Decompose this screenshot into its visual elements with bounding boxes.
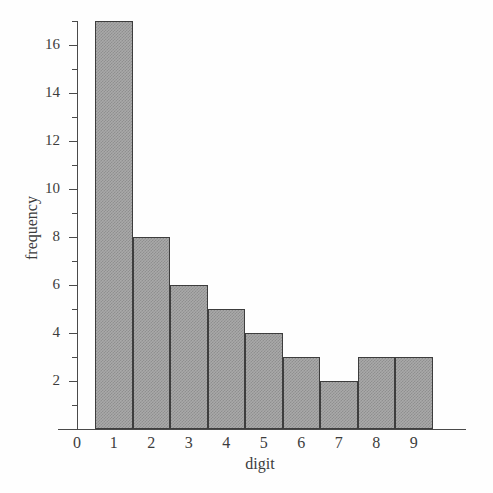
- y-tick-major: [69, 333, 77, 334]
- y-tick-major: [69, 45, 77, 46]
- y-tick-minor: [72, 69, 77, 70]
- plot-area: 246810121416 0123456789 digit frequency: [0, 0, 493, 493]
- y-tick-major: [69, 189, 77, 190]
- x-tick-label-8: 8: [356, 434, 396, 452]
- bar-digit-8: [358, 357, 396, 429]
- y-tick-minor: [72, 21, 77, 22]
- x-tick-label-5: 5: [244, 434, 284, 452]
- y-tick-major: [69, 285, 77, 286]
- y-tick-major: [69, 237, 77, 238]
- y-tick-major: [69, 93, 77, 94]
- y-tick-minor: [72, 261, 77, 262]
- y-tick-label: 14: [45, 85, 60, 100]
- bar-digit-1: [95, 21, 133, 429]
- x-tick-label-4: 4: [206, 434, 246, 452]
- bar-digit-9: [395, 357, 433, 429]
- bar-digit-5: [245, 333, 283, 429]
- x-axis-line: [58, 429, 466, 430]
- y-tick-label: 10: [45, 181, 60, 196]
- y-tick-label: 12: [45, 133, 60, 148]
- bar-digit-2: [133, 237, 171, 429]
- y-tick-minor: [72, 405, 77, 406]
- y-tick-minor: [72, 117, 77, 118]
- x-tick-label-1: 1: [94, 434, 134, 452]
- y-tick-label: 16: [45, 37, 60, 52]
- x-tick-label-2: 2: [131, 434, 171, 452]
- x-tick-label-6: 6: [281, 434, 321, 452]
- bar-digit-3: [170, 285, 208, 429]
- y-tick-minor: [72, 213, 77, 214]
- y-axis-title: frequency: [23, 173, 41, 283]
- y-tick-label: 6: [53, 277, 61, 292]
- x-tick-label-0: 0: [57, 434, 97, 452]
- bar-digit-7: [320, 381, 358, 429]
- y-tick-label: 8: [53, 229, 61, 244]
- y-tick-major: [69, 141, 77, 142]
- y-tick-label: 4: [53, 325, 61, 340]
- y-tick-major: [69, 381, 77, 382]
- x-axis-title: digit: [200, 455, 320, 473]
- y-axis-line: [77, 21, 78, 430]
- bar-digit-6: [283, 357, 321, 429]
- x-tick-label-3: 3: [169, 434, 209, 452]
- y-tick-minor: [72, 309, 77, 310]
- x-tick-label-9: 9: [394, 434, 434, 452]
- y-tick-label: 2: [53, 373, 61, 388]
- y-tick-minor: [72, 357, 77, 358]
- histogram-figure: 246810121416 0123456789 digit frequency: [0, 0, 493, 493]
- bar-digit-4: [208, 309, 246, 429]
- x-tick-label-7: 7: [319, 434, 359, 452]
- y-tick-minor: [72, 165, 77, 166]
